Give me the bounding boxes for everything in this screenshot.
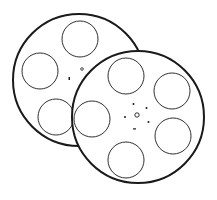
front-reel-hub-dot <box>124 116 126 118</box>
film-reels-illustration <box>0 0 217 200</box>
back-reel-hub-dot <box>69 77 71 80</box>
front-reel-hole <box>108 142 144 178</box>
front-reel-hole <box>154 73 190 109</box>
front-reel-spindle <box>135 113 139 117</box>
front-reel-hub-dot <box>146 107 148 109</box>
back-reel-hole <box>62 21 98 57</box>
front-reel-hub-dot <box>133 103 135 105</box>
front-reel-hole <box>155 118 191 154</box>
front-reel-hole <box>74 101 110 137</box>
back-reel-hole <box>38 99 74 135</box>
front-film-reel <box>72 51 204 183</box>
back-reel-hub-dot <box>81 68 84 71</box>
front-reel-hub-dot <box>133 128 136 129</box>
front-reel-hub-dot <box>148 121 150 123</box>
front-reel-hole <box>108 58 144 94</box>
back-reel-hole <box>22 53 58 89</box>
